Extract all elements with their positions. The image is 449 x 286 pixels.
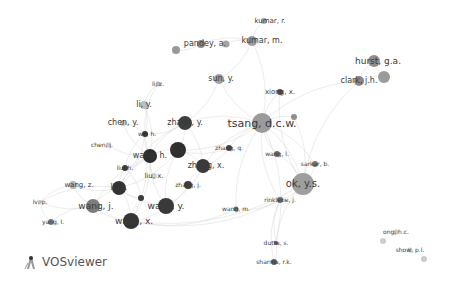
node-label-wang-j[interactable]: wang, j. bbox=[78, 202, 113, 211]
network-edge bbox=[303, 81, 359, 184]
node-label-show-pl[interactable]: show, p.l. bbox=[396, 247, 425, 253]
vosviewer-logo-icon bbox=[24, 254, 38, 270]
network-node-small-dark[interactable] bbox=[138, 195, 144, 201]
network-node-ong-extra[interactable] bbox=[380, 238, 386, 244]
node-label-sharma-rk[interactable]: sharma, r.k. bbox=[256, 259, 292, 265]
node-label-zhang-j[interactable]: zhang, j. bbox=[175, 182, 201, 188]
node-label-pandey-a[interactable]: pandey, a. bbox=[184, 40, 226, 48]
network-edge bbox=[262, 123, 281, 243]
node-label-clark-jh[interactable]: clark, j.h. bbox=[341, 77, 378, 85]
node-label-zhang-y[interactable]: zhang, y. bbox=[167, 119, 203, 127]
node-label-wang-z[interactable]: wang, z. bbox=[64, 182, 93, 189]
node-label-chen-j[interactable]: chen, j. bbox=[91, 142, 113, 148]
node-label-ong-hc[interactable]: ong, h.c. bbox=[383, 229, 409, 235]
network-node-show-extra[interactable] bbox=[421, 256, 427, 262]
network-edge bbox=[236, 123, 262, 209]
vosviewer-logo: VOSviewer bbox=[24, 254, 107, 270]
node-label-kumar-r[interactable]: kumar, r. bbox=[254, 18, 285, 25]
node-label-rinklebe-j[interactable]: rinklebe, j. bbox=[264, 197, 296, 203]
network-node-clark-extra[interactable] bbox=[378, 71, 390, 83]
node-label-sarkar-b[interactable]: sarkar, b. bbox=[301, 161, 329, 167]
node-label-ok-ys[interactable]: ok, y.s. bbox=[286, 179, 320, 189]
node-label-wu-h[interactable]: wu, h. bbox=[138, 131, 156, 137]
node-label-liu-x[interactable]: liu, x. bbox=[144, 173, 163, 180]
node-label-li-z[interactable]: li, z. bbox=[152, 81, 164, 87]
node-label-wang-h[interactable]: wang, h. bbox=[133, 152, 167, 160]
node-label-wang-m[interactable]: wang, m. bbox=[222, 206, 250, 212]
node-label-zhang-q[interactable]: zhang, q. bbox=[215, 145, 243, 151]
network-edge bbox=[261, 123, 280, 200]
network-edge bbox=[252, 41, 265, 123]
node-label-chen-y[interactable]: chen, y. bbox=[108, 119, 139, 127]
network-node-pandey-extra1[interactable] bbox=[172, 46, 180, 54]
node-label-wang-l[interactable]: wang, l. bbox=[265, 151, 289, 157]
node-label-yang-l[interactable]: yang, l. bbox=[42, 219, 64, 225]
node-label-liu-h[interactable]: liu, h. bbox=[117, 165, 134, 171]
node-label-li-y[interactable]: li, y. bbox=[136, 101, 152, 109]
node-label-wang-y[interactable]: wang, y. bbox=[148, 202, 185, 211]
node-label-li-x[interactable]: li, x. bbox=[111, 184, 128, 192]
node-label-li-j[interactable]: li, j. bbox=[171, 146, 185, 154]
node-label-tsang-dcw[interactable]: tsang, d.c.w. bbox=[227, 118, 296, 129]
node-label-wang-x[interactable]: wang, x. bbox=[115, 217, 153, 226]
node-label-dutta-s[interactable]: dutta, s. bbox=[264, 240, 289, 246]
vosviewer-logo-text: VOSviewer bbox=[42, 255, 107, 269]
node-label-sun-y[interactable]: sun, y. bbox=[208, 75, 234, 83]
node-label-xiong-x[interactable]: xiong, x. bbox=[265, 89, 295, 96]
node-label-zhang-x[interactable]: zhang, x. bbox=[188, 162, 225, 170]
node-label-lv-p[interactable]: lv, p. bbox=[33, 199, 48, 205]
node-label-hurst-ga[interactable]: hurst, g.a. bbox=[355, 57, 401, 66]
node-label-kumar-m[interactable]: kumar, m. bbox=[242, 37, 283, 45]
